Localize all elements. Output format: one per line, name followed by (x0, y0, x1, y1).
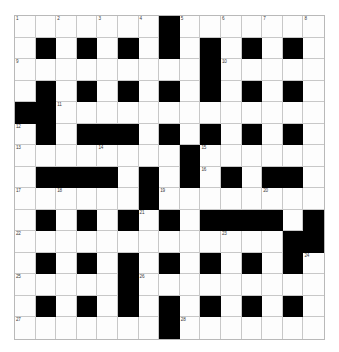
letter-cell[interactable] (97, 59, 118, 81)
letter-cell[interactable] (283, 59, 304, 81)
letter-cell[interactable]: 5 (180, 16, 201, 38)
letter-cell[interactable] (283, 188, 304, 210)
letter-cell[interactable] (56, 124, 77, 146)
letter-cell[interactable] (15, 81, 36, 103)
letter-cell[interactable]: 17 (15, 188, 36, 210)
letter-cell[interactable] (283, 16, 304, 38)
letter-cell[interactable] (77, 145, 98, 167)
letter-cell[interactable]: 2 (56, 16, 77, 38)
letter-cell[interactable] (97, 231, 118, 253)
letter-cell[interactable] (303, 102, 324, 124)
letter-cell[interactable] (180, 296, 201, 318)
letter-cell[interactable] (221, 81, 242, 103)
letter-cell[interactable] (180, 210, 201, 232)
letter-cell[interactable] (303, 274, 324, 296)
letter-cell[interactable] (139, 253, 160, 275)
letter-cell[interactable] (118, 102, 139, 124)
letter-cell[interactable] (139, 231, 160, 253)
letter-cell[interactable] (36, 59, 57, 81)
letter-cell[interactable] (77, 317, 98, 339)
letter-cell[interactable] (242, 231, 263, 253)
letter-cell[interactable] (77, 188, 98, 210)
letter-cell[interactable] (56, 81, 77, 103)
letter-cell[interactable] (221, 188, 242, 210)
letter-cell[interactable] (262, 124, 283, 146)
letter-cell[interactable] (56, 59, 77, 81)
letter-cell[interactable]: 19 (159, 188, 180, 210)
letter-cell[interactable] (15, 210, 36, 232)
letter-cell[interactable] (262, 296, 283, 318)
letter-cell[interactable] (15, 38, 36, 60)
letter-cell[interactable]: 10 (221, 59, 242, 81)
letter-cell[interactable] (242, 167, 263, 189)
letter-cell[interactable]: 26 (139, 274, 160, 296)
letter-cell[interactable]: 7 (262, 16, 283, 38)
letter-cell[interactable] (97, 296, 118, 318)
letter-cell[interactable] (221, 253, 242, 275)
letter-cell[interactable] (283, 102, 304, 124)
letter-cell[interactable] (242, 59, 263, 81)
letter-cell[interactable]: 11 (56, 102, 77, 124)
letter-cell[interactable] (56, 231, 77, 253)
letter-cell[interactable] (303, 38, 324, 60)
letter-cell[interactable] (118, 188, 139, 210)
letter-cell[interactable]: 8 (303, 16, 324, 38)
letter-cell[interactable] (262, 317, 283, 339)
letter-cell[interactable] (77, 59, 98, 81)
letter-cell[interactable] (283, 274, 304, 296)
letter-cell[interactable] (242, 188, 263, 210)
letter-cell[interactable] (56, 38, 77, 60)
letter-cell[interactable] (200, 317, 221, 339)
crossword-grid[interactable]: 1234567891011121314151617181920212223242… (15, 16, 324, 339)
letter-cell[interactable] (159, 231, 180, 253)
letter-cell[interactable] (303, 145, 324, 167)
letter-cell[interactable] (180, 59, 201, 81)
letter-cell[interactable] (303, 81, 324, 103)
letter-cell[interactable] (36, 231, 57, 253)
letter-cell[interactable] (36, 317, 57, 339)
letter-cell[interactable] (139, 38, 160, 60)
letter-cell[interactable] (56, 296, 77, 318)
letter-cell[interactable]: 21 (139, 210, 160, 232)
letter-cell[interactable]: 1 (15, 16, 36, 38)
letter-cell[interactable]: 20 (262, 188, 283, 210)
letter-cell[interactable] (262, 81, 283, 103)
letter-cell[interactable] (262, 231, 283, 253)
letter-cell[interactable] (180, 188, 201, 210)
letter-cell[interactable] (200, 231, 221, 253)
letter-cell[interactable] (262, 59, 283, 81)
letter-cell[interactable] (242, 274, 263, 296)
letter-cell[interactable] (180, 124, 201, 146)
letter-cell[interactable] (97, 210, 118, 232)
letter-cell[interactable] (221, 274, 242, 296)
letter-cell[interactable] (139, 102, 160, 124)
letter-cell[interactable] (303, 188, 324, 210)
letter-cell[interactable] (159, 145, 180, 167)
letter-cell[interactable] (56, 145, 77, 167)
letter-cell[interactable] (180, 253, 201, 275)
letter-cell[interactable] (36, 145, 57, 167)
letter-cell[interactable] (200, 274, 221, 296)
letter-cell[interactable] (180, 38, 201, 60)
letter-cell[interactable]: 15 (200, 145, 221, 167)
letter-cell[interactable] (262, 145, 283, 167)
letter-cell[interactable] (303, 317, 324, 339)
letter-cell[interactable] (36, 274, 57, 296)
letter-cell[interactable] (221, 102, 242, 124)
letter-cell[interactable] (221, 38, 242, 60)
letter-cell[interactable] (221, 124, 242, 146)
letter-cell[interactable] (15, 296, 36, 318)
letter-cell[interactable] (118, 167, 139, 189)
letter-cell[interactable] (56, 317, 77, 339)
letter-cell[interactable] (180, 274, 201, 296)
letter-cell[interactable] (118, 145, 139, 167)
letter-cell[interactable]: 25 (15, 274, 36, 296)
letter-cell[interactable] (36, 188, 57, 210)
letter-cell[interactable]: 13 (15, 145, 36, 167)
letter-cell[interactable]: 18 (56, 188, 77, 210)
letter-cell[interactable] (221, 145, 242, 167)
letter-cell[interactable] (200, 102, 221, 124)
letter-cell[interactable] (242, 102, 263, 124)
letter-cell[interactable] (303, 167, 324, 189)
letter-cell[interactable] (180, 81, 201, 103)
